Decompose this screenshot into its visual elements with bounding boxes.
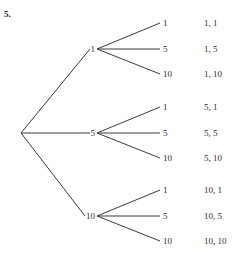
branch-1-to-10-0-2 [97,49,160,74]
branch-root-to-1-0 [21,49,90,133]
branch-10-to-1-2-0 [97,190,160,216]
tree-node-level1: 5 [91,128,96,138]
tree-node-level2: 10 [163,69,172,79]
branch-group-level2 [97,23,160,241]
tree-diagram-page: 5. 1510 151015101510 1, 11, 51, 105, 15,… [0,0,243,261]
tree-node-level1: 10 [86,211,95,221]
branch-5-to-1-1-0 [97,107,160,133]
tree-node-level2: 1 [163,102,168,112]
tree-node-level2: 10 [163,153,172,163]
tree-node-level2: 10 [163,236,172,246]
outcome-label: 5, 1 [204,102,218,112]
outcome-label: 10, 5 [204,211,222,221]
outcome-label: 1, 1 [204,18,218,28]
tree-node-level1: 1 [91,44,96,54]
tree-node-level2: 5 [163,44,168,54]
outcome-label: 5, 10 [204,153,222,163]
outcome-label: 10, 10 [204,236,227,246]
outcome-label: 10, 1 [204,185,222,195]
branch-5-to-10-1-2 [97,133,160,158]
branch-1-to-1-0-0 [97,23,160,49]
tree-node-level2: 5 [163,128,168,138]
tree-node-level2: 1 [163,185,168,195]
tree-node-level2: 5 [163,211,168,221]
tree-node-level2: 1 [163,18,168,28]
branch-10-to-10-2-2 [97,216,160,241]
outcome-label: 5, 5 [204,128,218,138]
branch-group-level1 [21,49,90,216]
branch-root-to-10-2 [21,133,85,216]
outcome-label: 1, 5 [204,44,218,54]
outcome-label: 1, 10 [204,69,222,79]
